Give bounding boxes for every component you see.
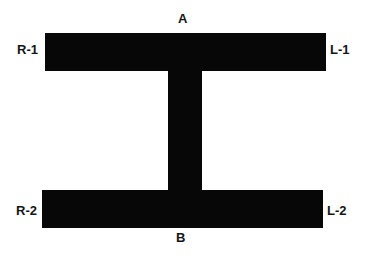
label-l2: L-2 xyxy=(327,204,347,217)
top-flange xyxy=(45,33,326,71)
figure-canvas: A R-1 L-1 R-2 L-2 B xyxy=(0,0,366,258)
label-a: A xyxy=(178,12,187,25)
label-b: B xyxy=(176,231,185,244)
label-r1: R-1 xyxy=(17,43,38,56)
label-l1: L-1 xyxy=(330,43,350,56)
vertical-web xyxy=(168,68,202,193)
label-r2: R-2 xyxy=(16,204,37,217)
bottom-flange xyxy=(42,190,323,228)
